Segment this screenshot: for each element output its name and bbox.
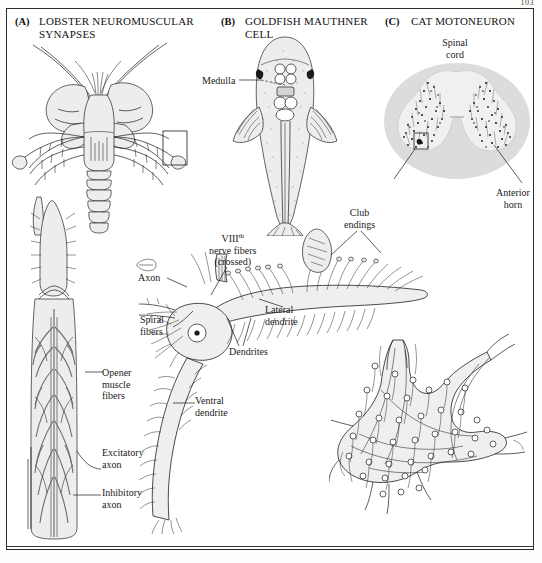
figure-page: 103 (A) LOBSTER NEUROMUSCULARSYNAPSES [0,0,542,563]
figure-frame-bottom-rule [6,546,534,547]
viii-superscript: th [239,232,244,240]
label-spiral-fibers: Spiral fibers [140,314,164,337]
label-medulla: Medulla [202,75,235,87]
viii-rest: nerve fibers (crossed) [209,245,256,268]
leader-ventral-dendrite [171,398,197,408]
panel-c-tag: (C) [385,16,400,27]
leader-excitatory-axon [73,449,103,475]
leader-inhibitory-axon [71,489,103,501]
goldfish-dorsal-view [225,31,345,236]
leader-viii-nerve-fibers [207,265,229,297]
label-axon: Axon [138,272,160,284]
leader-spiral-fibers [173,309,195,331]
panel-c-title: CAT MOTONEURON [411,15,515,28]
panel-a-tag: (A) [15,16,30,27]
leader-club-endings [327,231,385,259]
viii-numeral: VIII [221,233,238,244]
label-spinal-cord: Spinal cord [425,37,485,60]
leader-opener-muscle-fibers [85,367,107,377]
leader-axon [167,275,191,291]
label-club-endings: Club endings [344,207,375,230]
panel-b-tag: (B) [221,16,235,27]
label-anterior-horn: Anterior horn [485,187,541,210]
label-ventral-dendrite: Ventral dendrite [195,395,228,418]
motoneuron-soma-with-boutons [329,334,529,534]
leader-lateral-dendrite [257,297,285,313]
panel-b-title-line1: GOLDFISH MAUTHNER [245,15,368,27]
panel-a-title-line1: LOBSTER NEUROMUSCULAR [39,15,194,27]
page-number: 103 [521,0,535,5]
leader-medulla [239,75,289,89]
figure-frame: (A) LOBSTER NEUROMUSCULARSYNAPSES [6,8,534,550]
spinal-cord-cross-section [382,61,532,191]
leader-dendrites [225,314,259,348]
label-viii-nerve-fibers: VIIIthnerve fibers (crossed) [209,231,256,268]
